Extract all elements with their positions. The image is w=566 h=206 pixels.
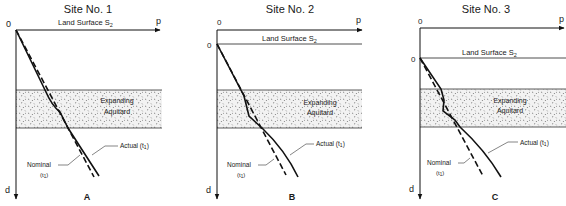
x-axis-label: p [559,14,564,24]
nominal-label: Nominal [427,159,451,166]
aquitard-label: Aquitard [497,107,523,115]
origin-label: 0 [418,17,423,26]
expanding-aquitard-band [217,90,362,128]
panel-a: Site No. 1 0 p Land Surface S2 Expanding… [5,3,162,202]
panel-b: Site No. 2 0 p Land Surface S2 0 Expandi… [206,3,362,202]
panel-letter: C [492,192,499,202]
nominal-label: Nominal [27,161,51,168]
actual-label: Actual (t1) [316,140,345,148]
nominal-label: Nominal [227,161,251,168]
nominal-time: (t1) [436,170,444,177]
y-axis-label: d [5,185,10,195]
aquitard-label: Aquitard [104,108,130,116]
figure: Site No. 1 0 p Land Surface S2 Expanding… [0,0,566,206]
origin-label: 0 [217,18,222,27]
surface-zero-label: 0 [207,41,212,50]
aquitard-label: Expanding [100,97,133,105]
x-axis-label: p [156,16,161,26]
expanding-aquitard-band [16,90,162,128]
y-axis-label: d [206,185,211,195]
panel-title: Site No. 2 [266,3,314,15]
aquitard-label: Expanding [493,97,526,105]
aquitard-label: Aquitard [307,109,333,117]
panel-letter: A [84,192,91,202]
nominal-time: (t1) [237,172,245,179]
panel-letter: B [289,192,296,202]
origin-label: 0 [6,19,11,29]
y-axis-label: d [409,184,414,194]
panel-title: Site No. 3 [462,3,510,15]
actual-label: Actual (t1) [120,142,149,150]
land-surface-label: Land Surface S2 [58,18,113,28]
land-surface-label: Land Surface S2 [462,48,517,58]
panel-title: Site No. 1 [64,3,112,15]
land-surface-label: Land Surface S2 [262,34,317,44]
nominal-time: (t1) [40,172,48,179]
surface-zero-label: 0 [411,55,416,64]
panel-c: Site No. 3 0 p Land Surface S2 0 Expandi… [409,3,566,202]
actual-label: Actual (t1) [520,139,549,147]
x-axis-label: p [356,15,361,25]
aquitard-label: Expanding [303,99,336,107]
